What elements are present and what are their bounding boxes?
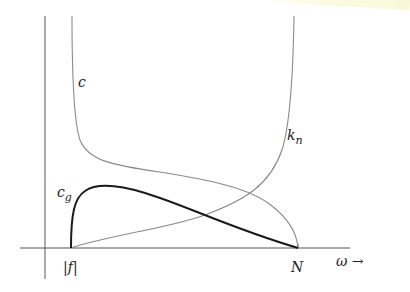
curve-kn xyxy=(71,16,294,248)
label-cg: cg xyxy=(57,184,72,204)
label-x-axis: ω → xyxy=(336,253,364,269)
label-kn: kn xyxy=(287,127,303,147)
curve-c xyxy=(72,16,298,248)
label-N-tick: N xyxy=(290,259,304,275)
label-c: c xyxy=(78,74,86,90)
label-f-tick: |f| xyxy=(63,259,78,276)
